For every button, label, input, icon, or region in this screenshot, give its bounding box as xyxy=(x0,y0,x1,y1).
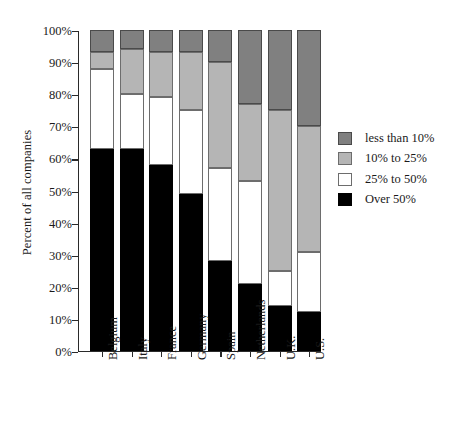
y-axis-tick-label: 80% xyxy=(6,89,72,102)
legend: less than 10%10% to 25%25% to 50%Over 50… xyxy=(338,128,464,210)
legend-label: 10% to 25% xyxy=(365,151,427,166)
y-axis-tick-label: 60% xyxy=(6,153,72,166)
legend-item: 10% to 25% xyxy=(338,149,464,170)
legend-swatch xyxy=(338,193,352,206)
legend-label: less than 10% xyxy=(365,131,434,146)
stacked-bar-chart: Percent of all companies 0%10%20%30%40%5… xyxy=(0,0,468,446)
legend-item: Over 50% xyxy=(338,190,464,211)
x-axis-tick-label: Belgium xyxy=(107,317,120,360)
y-axis-tick-label: 10% xyxy=(6,314,72,327)
x-axis-tick-label: Germany xyxy=(196,313,209,360)
y-axis-tick-label: 40% xyxy=(6,217,72,230)
legend-label: 25% to 50% xyxy=(365,172,427,187)
y-axis-tick-label: 20% xyxy=(6,282,72,295)
x-axis-tick-label: U.S. xyxy=(314,338,327,360)
y-axis-tick-label: 50% xyxy=(6,185,72,198)
legend-item: less than 10% xyxy=(338,128,464,149)
x-axis-tick-label: Netherlands xyxy=(255,300,268,360)
x-axis-tick-label: Spain xyxy=(225,332,238,360)
x-axis-tick-label: Italy xyxy=(137,337,150,360)
x-axis-tick-label: France xyxy=(166,326,179,360)
y-axis-tick-labels: 0%10%20%30%40%50%60%70%80%90%100% xyxy=(0,31,72,352)
x-axis-tick-label: U.K. xyxy=(285,336,298,360)
legend-swatch xyxy=(338,173,352,186)
legend-swatch xyxy=(338,152,352,165)
legend-swatch xyxy=(338,132,352,145)
y-axis-tick-label: 90% xyxy=(6,57,72,70)
legend-item: 25% to 50% xyxy=(338,169,464,190)
x-axis-tick-labels: BelgiumItalyFranceGermanySpainNetherland… xyxy=(78,0,328,446)
y-axis-tick-label: 30% xyxy=(6,249,72,262)
y-axis-tick-label: 0% xyxy=(6,346,72,359)
y-axis-tick-label: 70% xyxy=(6,121,72,134)
legend-label: Over 50% xyxy=(365,192,416,207)
y-axis-tick-label: 100% xyxy=(6,25,72,38)
